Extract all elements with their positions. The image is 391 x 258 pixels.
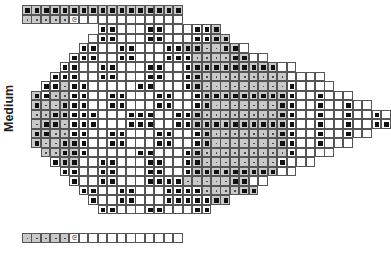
block-mark <box>72 56 77 61</box>
chart-cell <box>220 186 230 196</box>
block-mark <box>63 170 68 175</box>
block-mark <box>205 94 210 99</box>
chart-cell <box>98 24 108 34</box>
block-mark <box>63 75 68 80</box>
dot-mark <box>55 95 57 97</box>
chart-cell <box>154 129 164 139</box>
block-mark <box>176 198 181 203</box>
block-mark <box>280 103 285 108</box>
block-mark <box>72 151 77 156</box>
chart-cell <box>230 53 240 63</box>
chart-cell <box>211 24 221 34</box>
block-mark <box>120 94 125 99</box>
block-mark <box>280 113 285 118</box>
block-mark <box>195 103 200 108</box>
chart-cell <box>107 24 117 34</box>
chart-cell <box>315 81 325 91</box>
dot-mark <box>225 190 227 192</box>
dot-mark <box>27 19 29 21</box>
chart-cell <box>249 138 259 148</box>
dot-mark <box>216 76 218 78</box>
block-mark <box>63 65 68 70</box>
block-mark <box>148 113 153 118</box>
block-mark <box>224 170 229 175</box>
chart-cell <box>230 138 240 148</box>
chart-cell <box>296 110 306 120</box>
chart-cell <box>31 129 41 139</box>
block-mark <box>72 65 77 70</box>
chart-cell <box>183 43 193 53</box>
chart-cell <box>343 100 353 110</box>
dot-mark <box>272 162 274 164</box>
chart-cell <box>117 72 127 82</box>
chart-cell <box>126 34 136 44</box>
chart-cell <box>287 91 297 101</box>
block-mark <box>72 132 77 137</box>
chart-cell <box>164 15 174 25</box>
chart-cell <box>107 110 117 120</box>
block-mark <box>195 198 200 203</box>
chart-cell <box>192 72 202 82</box>
dot-mark <box>234 133 236 135</box>
block-mark <box>167 189 172 194</box>
block-mark <box>35 8 40 13</box>
chart-cell <box>41 5 51 15</box>
chart-cell <box>60 129 70 139</box>
chart-cell <box>211 43 221 53</box>
dot-mark <box>263 133 265 135</box>
block-mark <box>129 189 134 194</box>
chart-cell <box>315 100 325 110</box>
block-mark <box>148 170 153 175</box>
block-mark <box>157 103 162 108</box>
chart-cell <box>287 119 297 129</box>
block-mark <box>53 113 58 118</box>
chart-cell <box>88 186 98 196</box>
chart-cell <box>79 157 89 167</box>
chart-cell <box>249 81 259 91</box>
chart-cell <box>173 205 183 215</box>
block-mark <box>214 65 219 70</box>
block-mark <box>167 132 172 137</box>
block-mark <box>167 103 172 108</box>
chart-cell <box>154 157 164 167</box>
dot-mark <box>234 152 236 154</box>
dot-mark <box>206 181 208 183</box>
block-mark <box>195 94 200 99</box>
chart-cell <box>126 119 136 129</box>
chart-cell <box>173 81 183 91</box>
dot-mark <box>55 143 57 145</box>
block-mark <box>129 122 134 127</box>
chart-cell <box>135 15 145 25</box>
chart-cell <box>88 43 98 53</box>
chart-cell <box>31 110 41 120</box>
chart-cell <box>88 62 98 72</box>
chart-cell <box>277 119 287 129</box>
chart-cell <box>154 15 164 25</box>
chart-cell <box>79 72 89 82</box>
dot-mark <box>216 181 218 183</box>
chart-cell <box>220 176 230 186</box>
chart-cell <box>69 167 79 177</box>
chart-cell <box>50 129 60 139</box>
chart-cell <box>211 119 221 129</box>
block-mark <box>242 189 247 194</box>
block-mark <box>186 65 191 70</box>
chart-cell <box>334 119 344 129</box>
chart-cell <box>145 81 155 91</box>
chart-cell <box>41 91 51 101</box>
block-mark <box>252 170 257 175</box>
chart-cell <box>268 100 278 110</box>
chart-cell <box>60 138 70 148</box>
block-mark <box>186 170 191 175</box>
chart-cell <box>211 62 221 72</box>
dot-mark <box>36 124 38 126</box>
chart-cell <box>343 91 353 101</box>
block-mark <box>242 94 247 99</box>
chart-cell <box>183 205 193 215</box>
block-mark <box>186 160 191 165</box>
chart-cell <box>117 5 127 15</box>
block-mark <box>138 113 143 118</box>
block-mark <box>157 170 162 175</box>
chart-cell <box>192 138 202 148</box>
chart-cell <box>79 186 89 196</box>
